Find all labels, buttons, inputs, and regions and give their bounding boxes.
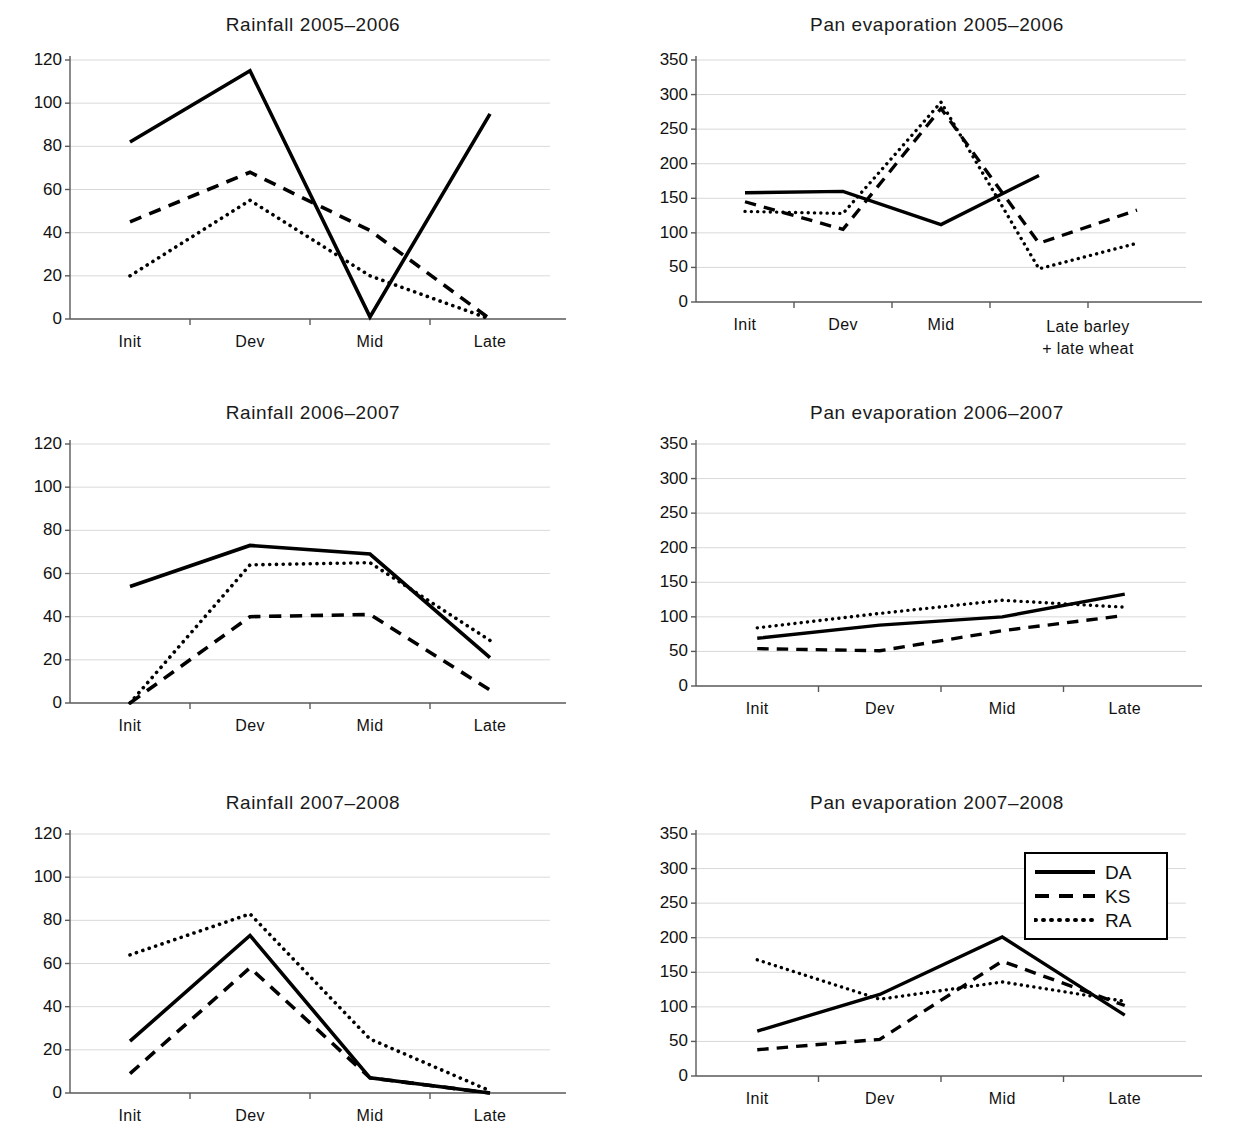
y-axis-tick-label: 350 — [630, 434, 688, 454]
legend-item: KS — [1034, 884, 1156, 908]
chart-title: Pan evaporation 2007–2008 — [628, 792, 1246, 814]
y-axis-tick-label: 60 — [4, 180, 62, 200]
chart-title: Pan evaporation 2006–2007 — [628, 402, 1246, 424]
chart-panel-pan-evaporation-2007-2008: Pan evaporation 2007–2008 DA KS RA — [628, 786, 1246, 1136]
legend-label: RA — [1105, 911, 1131, 930]
series-line-ra — [130, 200, 490, 319]
chart-title: Rainfall 2005–2006 — [8, 14, 618, 36]
chart-panel-rainfall-2007-2008: Rainfall 2007–2008 020406080100120InitDe… — [8, 786, 618, 1136]
chart-title: Pan evaporation 2005–2006 — [628, 14, 1246, 36]
chart-legend: DA KS RA — [1024, 852, 1168, 940]
y-axis-tick-label: 100 — [4, 867, 62, 887]
series-line-ks — [130, 615, 490, 703]
chart-canvas — [70, 60, 550, 319]
chart-canvas — [696, 60, 1186, 302]
series-line-ra — [130, 914, 490, 1091]
x-axis-tick-label: Late — [410, 1107, 570, 1125]
chart-canvas — [70, 834, 550, 1093]
x-axis-tick-label: Mid — [861, 316, 1021, 334]
y-axis-tick-label: 20 — [4, 266, 62, 286]
y-axis-tick-label: 250 — [630, 119, 688, 139]
y-axis-tick-label: 200 — [630, 928, 688, 948]
x-axis-tick-label: Late — [410, 333, 570, 351]
legend-swatch-solid — [1034, 866, 1096, 878]
y-axis-tick-label: 150 — [630, 188, 688, 208]
y-axis-tick-label: 150 — [630, 572, 688, 592]
y-axis-tick-label: 40 — [4, 223, 62, 243]
legend-swatch-dotted — [1034, 914, 1096, 926]
y-axis-tick-label: 0 — [630, 1066, 688, 1086]
y-axis-tick-label: 50 — [630, 257, 688, 277]
y-axis-tick-label: 80 — [4, 520, 62, 540]
y-axis-tick-label: 300 — [630, 85, 688, 105]
y-axis-tick-label: 350 — [630, 50, 688, 70]
x-axis-tick-label: Late barley+ late wheat — [998, 316, 1178, 359]
y-axis-tick-label: 0 — [630, 292, 688, 312]
series-line-ra — [130, 563, 490, 703]
y-axis-tick-label: 200 — [630, 538, 688, 558]
chart-title: Rainfall 2007–2008 — [8, 792, 618, 814]
y-axis-tick-label: 80 — [4, 910, 62, 930]
plot-area — [70, 834, 550, 1093]
chart-panel-pan-evaporation-2005-2006: Pan evaporation 2005–2006 05010015020025… — [628, 8, 1246, 378]
y-axis-tick-label: 300 — [630, 859, 688, 879]
y-axis-tick-label: 0 — [4, 1083, 62, 1103]
series-line-ks — [130, 968, 490, 1093]
legend-swatch-dashed — [1034, 890, 1096, 902]
y-axis-tick-label: 100 — [630, 607, 688, 627]
y-axis-tick-label: 60 — [4, 954, 62, 974]
y-axis-tick-label: 150 — [630, 962, 688, 982]
y-axis-tick-label: 250 — [630, 893, 688, 913]
y-axis-tick-label: 350 — [630, 824, 688, 844]
chart-panel-rainfall-2006-2007: Rainfall 2006–2007 020406080100120InitDe… — [8, 396, 618, 756]
chart-canvas — [70, 444, 550, 703]
y-axis-tick-label: 300 — [630, 469, 688, 489]
plot-area — [70, 60, 550, 319]
y-axis-tick-label: 50 — [630, 1031, 688, 1051]
plot-area — [696, 444, 1186, 686]
legend-item: DA — [1034, 860, 1156, 884]
y-axis-tick-label: 120 — [4, 434, 62, 454]
chart-canvas — [696, 444, 1186, 686]
x-axis-tick-label: Late — [1045, 700, 1205, 718]
y-axis-tick-label: 120 — [4, 50, 62, 70]
y-axis-tick-label: 0 — [4, 309, 62, 329]
x-axis-tick-label: Late — [410, 717, 570, 735]
series-line-da — [757, 594, 1125, 638]
figure-caption — [8, 1136, 1254, 1144]
y-axis-tick-label: 100 — [4, 477, 62, 497]
x-axis-tick-label: Late — [1045, 1090, 1205, 1108]
y-axis-tick-label: 250 — [630, 503, 688, 523]
chart-title: Rainfall 2006–2007 — [8, 402, 618, 424]
chart-panel-pan-evaporation-2006-2007: Pan evaporation 2006–2007 05010015020025… — [628, 396, 1246, 756]
y-axis-tick-label: 200 — [630, 154, 688, 174]
y-axis-tick-label: 20 — [4, 1040, 62, 1060]
y-axis-tick-label: 40 — [4, 997, 62, 1017]
y-axis-tick-label: 50 — [630, 641, 688, 661]
figure-panel-grid: Rainfall 2005–2006 020406080100120InitDe… — [0, 0, 1254, 1144]
y-axis-tick-label: 120 — [4, 824, 62, 844]
y-axis-tick-label: 100 — [630, 223, 688, 243]
y-axis-tick-label: 0 — [630, 676, 688, 696]
legend-label: KS — [1105, 887, 1130, 906]
series-line-ks — [757, 961, 1125, 1050]
legend-label: DA — [1105, 863, 1131, 882]
y-axis-tick-label: 80 — [4, 136, 62, 156]
y-axis-tick-label: 0 — [4, 693, 62, 713]
series-line-da — [130, 935, 490, 1093]
series-line-da — [745, 175, 1039, 224]
legend-item: RA — [1034, 908, 1156, 932]
plot-area — [70, 444, 550, 703]
y-axis-tick-label: 20 — [4, 650, 62, 670]
chart-panel-rainfall-2005-2006: Rainfall 2005–2006 020406080100120InitDe… — [8, 8, 618, 378]
y-axis-tick-label: 60 — [4, 564, 62, 584]
y-axis-tick-label: 100 — [4, 93, 62, 113]
y-axis-tick-label: 40 — [4, 607, 62, 627]
plot-area — [696, 60, 1186, 302]
series-line-ra — [745, 102, 1137, 269]
y-axis-tick-label: 100 — [630, 997, 688, 1017]
